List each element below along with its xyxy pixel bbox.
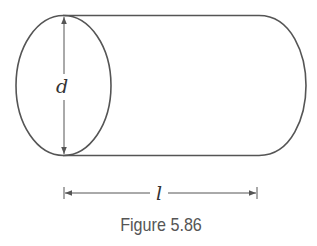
length-label: l	[156, 182, 162, 204]
diameter-label: d	[56, 75, 68, 97]
figure-caption: Figure 5.86	[24, 214, 298, 236]
cylinder-far-end-arc	[259, 16, 306, 156]
cylinder-diagram: d l	[0, 0, 317, 246]
